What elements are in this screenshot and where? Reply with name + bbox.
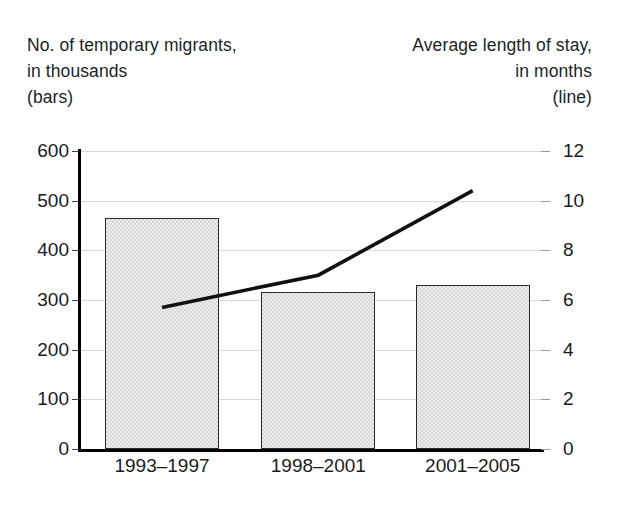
left-axis-caption-line2: in thousands <box>27 58 297 84</box>
y2-axis-tick <box>541 151 550 152</box>
y2-axis-tick <box>541 250 550 251</box>
line-series-path <box>162 191 473 308</box>
left-axis-caption-line1: No. of temporary migrants, <box>27 32 297 58</box>
x-axis-category-label: 2001–2005 <box>398 455 548 477</box>
line-series-layer <box>81 151 541 449</box>
y2-axis-tick-label: 0 <box>563 439 623 458</box>
y-axis-tick-label: 200 <box>3 340 69 359</box>
y-axis-tick-label: 400 <box>3 240 69 259</box>
y-axis-tick-label: 0 <box>3 439 69 458</box>
y2-axis-tick-label: 6 <box>563 290 623 309</box>
left-axis-caption-line3: (bars) <box>27 84 297 110</box>
y2-axis-tick <box>541 449 550 450</box>
y2-axis-tick-label: 10 <box>563 191 623 210</box>
x-axis-category-label: 1998–2001 <box>243 455 393 477</box>
y2-axis-tick-label: 12 <box>563 141 623 160</box>
right-axis-caption-line3: (line) <box>322 84 592 110</box>
y-axis-tick <box>72 399 79 400</box>
right-axis-caption-line1: Average length of stay, <box>322 32 592 58</box>
y2-axis-tick-label: 2 <box>563 389 623 408</box>
left-axis-caption: No. of temporary migrants, in thousands … <box>27 32 297 110</box>
y2-axis-tick <box>541 399 550 400</box>
y2-axis-tick <box>541 201 550 202</box>
chart-plot-area <box>81 151 541 449</box>
y-axis-tick-label: 600 <box>3 141 69 160</box>
y2-axis-tick-label: 8 <box>563 240 623 259</box>
right-axis-caption-line2: in months <box>322 58 592 84</box>
right-axis-caption: Average length of stay, in months (line) <box>322 32 592 110</box>
x-axis-line <box>78 449 544 452</box>
y-axis-tick-label: 500 <box>3 191 69 210</box>
y2-axis-tick-label: 4 <box>563 340 623 359</box>
y-axis-tick-label: 100 <box>3 389 69 408</box>
y-axis-tick <box>72 350 79 351</box>
y-axis-tick <box>72 449 79 450</box>
y2-axis-tick <box>541 300 550 301</box>
y2-axis-tick <box>541 350 550 351</box>
y-axis-tick <box>72 201 79 202</box>
y-axis-tick <box>72 151 79 152</box>
y-axis-tick <box>72 300 79 301</box>
x-axis-category-label: 1993–1997 <box>87 455 237 477</box>
y-axis-tick <box>72 250 79 251</box>
y-axis-tick-label: 300 <box>3 290 69 309</box>
